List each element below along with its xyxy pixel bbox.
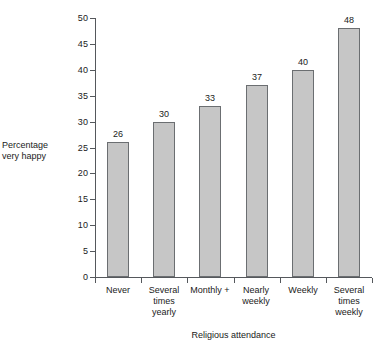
y-axis-tick <box>90 173 95 174</box>
y-axis-tick <box>90 199 95 200</box>
x-axis-category-label-line: weekly <box>326 307 372 318</box>
x-axis-category-label-line: Monthly + <box>187 285 233 296</box>
x-axis-category-label-line: times <box>326 296 372 307</box>
y-axis-tick-label: 10 <box>50 221 88 230</box>
y-axis-tick <box>90 70 95 71</box>
y-axis-tick-label-text: 40 <box>54 66 88 75</box>
y-axis-tick <box>90 18 95 19</box>
x-axis-category-label: Nearlyweekly <box>233 285 279 307</box>
bar <box>338 28 360 277</box>
bar-value-label: 37 <box>237 73 277 82</box>
x-axis-category-label-line: weekly <box>233 296 279 307</box>
y-axis-tick <box>90 44 95 45</box>
x-axis-tick <box>280 278 281 283</box>
y-axis-tick-label-text: 10 <box>54 221 88 230</box>
y-axis-tick-label: 5 <box>50 247 88 256</box>
y-axis-tick-label-text: 0 <box>54 273 88 282</box>
x-axis-category-label-line: Never <box>95 285 141 296</box>
bar-chart: 05101520253035404550 Percentagevery happ… <box>0 0 389 350</box>
y-axis-tick-label-text: 45 <box>54 40 88 49</box>
y-axis-tick-label: 20 <box>50 169 88 178</box>
x-axis-tick <box>141 278 142 283</box>
y-axis-title-line: very happy <box>2 151 70 162</box>
bar <box>246 85 268 277</box>
y-axis-tick-label: 40 <box>50 66 88 75</box>
x-axis-category-label: Severaltimesyearly <box>141 285 187 318</box>
x-axis-category-label-line: Nearly <box>233 285 279 296</box>
bar-value-label: 33 <box>190 94 230 103</box>
y-axis-tick-label-text: 30 <box>54 118 88 127</box>
y-axis-tick-label: 0 <box>50 273 88 282</box>
y-axis-tick <box>90 225 95 226</box>
x-axis-category-label: Severaltimesweekly <box>326 285 372 318</box>
y-axis-tick-label: 45 <box>50 40 88 49</box>
x-axis-title: Religious attendance <box>95 330 372 340</box>
x-axis-tick <box>187 278 188 283</box>
bar <box>107 142 129 277</box>
x-axis-category-label: Weekly <box>280 285 326 296</box>
x-axis-tick <box>95 278 96 283</box>
x-axis-category-label: Monthly + <box>187 285 233 296</box>
y-axis-title-line: Percentage <box>2 140 70 151</box>
y-axis-tick-label-text: 50 <box>54 14 88 23</box>
y-axis-tick-label: 35 <box>50 92 88 101</box>
y-axis-tick <box>90 96 95 97</box>
y-axis-tick-label-text: 15 <box>54 195 88 204</box>
x-axis-category-label-line: Several <box>141 285 187 296</box>
x-axis-category-label-line: Several <box>326 285 372 296</box>
y-axis-tick-label-text: 20 <box>54 169 88 178</box>
bar-value-label: 30 <box>144 110 184 119</box>
y-axis-tick <box>90 148 95 149</box>
y-axis-tick <box>90 251 95 252</box>
x-axis-tick <box>372 278 373 283</box>
x-axis-category-label-line: times <box>141 296 187 307</box>
y-axis-tick-label: 50 <box>50 14 88 23</box>
bar <box>153 122 175 277</box>
y-axis-title: Percentagevery happy <box>2 140 70 162</box>
chart-title <box>0 0 389 6</box>
y-axis-tick-label: 30 <box>50 118 88 127</box>
y-axis-tick-label-text: 5 <box>54 247 88 256</box>
x-axis-category-label-line: Weekly <box>280 285 326 296</box>
bar-value-label: 48 <box>329 16 369 25</box>
bar <box>292 70 314 277</box>
x-axis-tick <box>234 278 235 283</box>
x-axis-category-label-line: yearly <box>141 307 187 318</box>
y-axis-tick-label-text: 35 <box>54 92 88 101</box>
bar-value-label: 40 <box>283 58 323 67</box>
y-axis-line <box>95 18 96 277</box>
bar <box>199 106 221 277</box>
x-axis-category-label: Never <box>95 285 141 296</box>
x-axis-tick <box>326 278 327 283</box>
y-axis-tick-label: 15 <box>50 195 88 204</box>
bar-value-label: 26 <box>98 130 138 139</box>
y-axis-tick <box>90 122 95 123</box>
